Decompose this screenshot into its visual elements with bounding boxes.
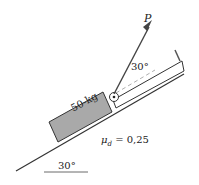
incline-surface — [16, 74, 184, 171]
force-label: P — [144, 12, 151, 25]
pin-center-icon — [113, 96, 116, 99]
incline-diagram — [0, 0, 199, 185]
rail-end-stop — [175, 50, 180, 61]
friction-label: μd = 0,25 — [101, 134, 149, 148]
friction-value: = 0,25 — [112, 134, 149, 145]
force-angle-label: 30° — [131, 61, 149, 72]
incline-angle-label: 30° — [58, 160, 76, 171]
